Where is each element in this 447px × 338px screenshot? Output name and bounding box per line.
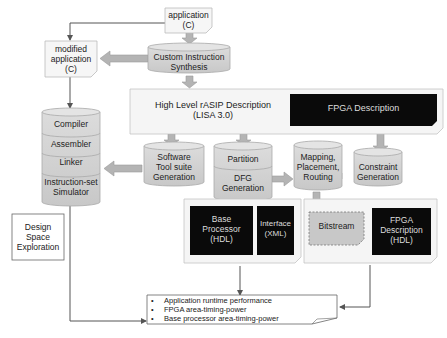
mapping-label-line: Mapping,: [294, 152, 342, 162]
fpga-hdl-line: (HDL): [372, 235, 431, 245]
dse-line: Space: [12, 232, 64, 242]
rasip-description-label: High Level rASIP Description (LISA 3.0): [138, 100, 288, 120]
dse-line: Design: [12, 222, 64, 232]
rasip-label-line: (LISA 3.0): [138, 110, 288, 120]
base-processor-line: Base: [190, 214, 253, 224]
custom-instruction-synthesis-label: Custom Instruction Synthesis: [148, 52, 230, 72]
dse-line: Exploration: [12, 242, 64, 252]
interface-line: Interface: [257, 219, 294, 229]
iss-label-line: Simulator: [42, 187, 100, 197]
mapping-label-line: Placement,: [294, 162, 342, 172]
tool-stack-assembler: Assembler: [42, 139, 100, 149]
mapping-label-line: Routing: [294, 172, 342, 182]
constraint-generation-label: Constraint Generation: [354, 162, 402, 182]
modified-application-line: (C): [45, 64, 97, 74]
interface-label: Interface (XML): [257, 219, 294, 239]
constraint-label-line: Constraint: [354, 162, 402, 172]
modified-application-line: modified: [45, 44, 97, 54]
base-processor-line: Processor: [190, 224, 253, 234]
design-space-exploration-label: Design Space Exploration: [12, 222, 64, 252]
application-label-line: application: [165, 10, 212, 20]
fpga-description-top-label: FPGA Description: [290, 103, 437, 113]
application-label-line: (C): [165, 20, 212, 30]
software-label-line: Tool suite: [144, 162, 204, 172]
arrow-cis-to-rasip: [182, 76, 197, 88]
cis-label-line: Custom Instruction: [148, 52, 230, 62]
application-label: application (C): [165, 10, 212, 30]
fpga-description-hdl-label: FPGA Description (HDL): [372, 215, 431, 245]
partition-label: Partition: [214, 154, 272, 164]
arrow-dfg-to-mapping: [272, 172, 293, 186]
bullet-icon: •: [151, 314, 154, 324]
cis-label-line: Synthesis: [148, 62, 230, 72]
base-processor-line: (HDL): [190, 234, 253, 244]
tool-stack-iss: Instruction-set Simulator: [42, 177, 100, 197]
mapping-label: Mapping, Placement, Routing: [294, 152, 342, 182]
iss-label-line: Instruction-set: [42, 177, 100, 187]
arrow-cis-to-modified: [100, 51, 148, 66]
constraint-label-line: Generation: [354, 172, 402, 182]
bitstream-label: Bitstream: [309, 221, 364, 231]
software-toolsuite-label: Software Tool suite Generation: [144, 152, 204, 182]
fpga-hdl-line: Description: [372, 225, 431, 235]
dfg-label-line: DFG: [214, 173, 272, 183]
dfg-generation-label: DFG Generation: [214, 173, 272, 193]
interface-line: (XML): [257, 229, 294, 239]
dfg-label-line: Generation: [214, 183, 272, 193]
modified-application-line: application: [45, 54, 97, 64]
rasip-label-line: High Level rASIP Description: [138, 100, 288, 110]
software-label-line: Software: [144, 152, 204, 162]
modified-application-label: modified application (C): [45, 44, 97, 74]
fpga-hdl-line: FPGA: [372, 215, 431, 225]
base-processor-label: Base Processor (HDL): [190, 214, 253, 244]
arrow-app-to-cis: [182, 32, 197, 44]
tool-stack-compiler: Compiler: [42, 119, 100, 129]
tool-stack-linker: Linker: [42, 157, 100, 167]
arrow-software-to-stack: [104, 161, 142, 176]
software-label-line: Generation: [144, 172, 204, 182]
result-item: Base processor area-timing-power: [164, 314, 279, 324]
